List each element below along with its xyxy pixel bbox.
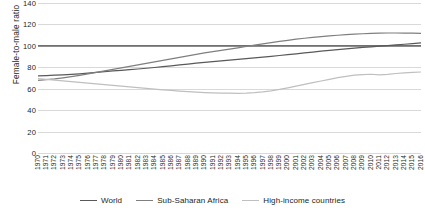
legend-item-high-income-countries[interactable]: High-income countries [242, 196, 345, 205]
x-tick-label-1975: 1975 [76, 155, 83, 170]
x-tick-label-1981: 1981 [126, 155, 133, 170]
y-tick-label-140: 140 [2, 0, 36, 8]
x-tick-label-2012: 2012 [384, 155, 391, 170]
legend-label: World [101, 196, 122, 205]
legend-label: Sub-Saharan Africa [157, 196, 228, 205]
x-tick-label-1982: 1982 [135, 155, 142, 170]
y-tick-label-60: 60 [2, 84, 36, 93]
y-axis: Female-to-male ratio 020406080100120140 [0, 0, 36, 218]
x-tick-label-1993: 1993 [226, 155, 233, 170]
legend-item-world[interactable]: World [80, 196, 122, 205]
legend-item-sub-saharan-africa[interactable]: Sub-Saharan Africa [136, 196, 228, 205]
x-tick-label-1992: 1992 [218, 155, 225, 170]
x-tick-label-2000: 2000 [284, 155, 291, 170]
x-tick-label-2014: 2014 [401, 155, 408, 170]
x-tick-label-1986: 1986 [168, 155, 175, 170]
x-tick-labels: 1970197119721973197419751976197719781979… [38, 155, 421, 191]
x-tick-label-1991: 1991 [210, 155, 217, 170]
x-tick-label-2013: 2013 [393, 155, 400, 170]
x-tick-label-2003: 2003 [309, 155, 316, 170]
plot-area [38, 3, 421, 153]
x-tick-label-1989: 1989 [193, 155, 200, 170]
x-tick-label-1976: 1976 [85, 155, 92, 170]
legend-swatch-icon [242, 200, 259, 202]
x-tick-label-1978: 1978 [101, 155, 108, 170]
chart-legend: WorldSub-Saharan AfricaHigh-income count… [0, 196, 425, 205]
y-tick-label-120: 120 [2, 20, 36, 29]
y-axis-title: Female-to-male ratio [12, 0, 21, 115]
x-tick-label-1996: 1996 [251, 155, 258, 170]
gridline-0 [38, 153, 421, 154]
x-tick-label-1977: 1977 [93, 155, 100, 170]
x-tick-label-2001: 2001 [293, 155, 300, 170]
x-tick-label-2011: 2011 [376, 155, 383, 170]
x-tick-label-1971: 1971 [43, 155, 50, 170]
series-line-sub-saharan-africa [38, 33, 421, 80]
x-tick-label-2008: 2008 [351, 155, 358, 170]
x-tick-label-1970: 1970 [35, 155, 42, 170]
x-tick-label-1972: 1972 [51, 155, 58, 170]
x-tick-label-1998: 1998 [268, 155, 275, 170]
x-tick-label-2015: 2015 [409, 155, 416, 170]
x-tick-label-1984: 1984 [151, 155, 158, 170]
legend-swatch-icon [80, 200, 97, 202]
x-tick-label-2007: 2007 [343, 155, 350, 170]
y-tick-label-0: 0 [2, 149, 36, 158]
x-tick-label-1973: 1973 [60, 155, 67, 170]
x-tick-label-1974: 1974 [68, 155, 75, 170]
series-line-high-income-countries [38, 72, 421, 93]
x-tick-label-1990: 1990 [201, 155, 208, 170]
x-tick-label-1994: 1994 [235, 155, 242, 170]
x-tick-label-2005: 2005 [326, 155, 333, 170]
x-tick-label-2002: 2002 [301, 155, 308, 170]
x-tick-label-2004: 2004 [318, 155, 325, 170]
y-tick-label-20: 20 [2, 127, 36, 136]
legend-swatch-icon [136, 200, 153, 202]
x-tick-label-1983: 1983 [143, 155, 150, 170]
x-tick-label-1988: 1988 [185, 155, 192, 170]
x-tick-label-1979: 1979 [110, 155, 117, 170]
series-line-world [38, 43, 421, 76]
y-tick-label-100: 100 [2, 41, 36, 50]
y-tick-label-80: 80 [2, 63, 36, 72]
x-tick-label-1980: 1980 [118, 155, 125, 170]
x-tick-label-1985: 1985 [160, 155, 167, 170]
legend-label: High-income countries [263, 196, 345, 205]
x-tick-label-1987: 1987 [176, 155, 183, 170]
x-tick-label-1995: 1995 [243, 155, 250, 170]
series-lines [38, 3, 421, 153]
x-tick-label-2016: 2016 [418, 155, 425, 170]
y-tick-label-40: 40 [2, 106, 36, 115]
x-tick-label-2006: 2006 [334, 155, 341, 170]
line-chart: Female-to-male ratio 020406080100120140 … [0, 0, 425, 218]
x-tick-label-1999: 1999 [276, 155, 283, 170]
x-tick-label-2009: 2009 [359, 155, 366, 170]
x-tick-label-1997: 1997 [260, 155, 267, 170]
x-tick-label-2010: 2010 [368, 155, 375, 170]
